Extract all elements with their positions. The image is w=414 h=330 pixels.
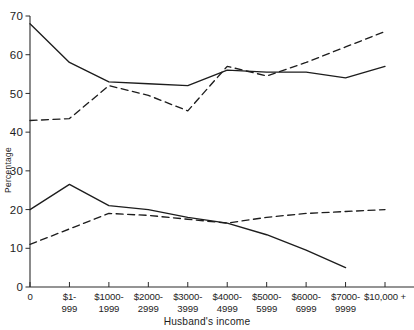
x-tick-label: $1000- <box>94 291 123 302</box>
line-chart: 010203040506070 0$1-999$1000-1999$2000-2… <box>0 0 414 330</box>
x-tick-label: $10,000 + <box>364 291 407 302</box>
data-series-group <box>30 24 385 268</box>
x-tick-label: $7000- <box>331 291 360 302</box>
series-line-lower-dashed <box>30 210 385 245</box>
series-line-upper-solid <box>30 24 385 86</box>
x-tick-label-line2: 6999 <box>296 303 317 314</box>
x-tick-labels: 0$1-999$1000-1999$2000-2999$3000-3999$40… <box>27 291 406 314</box>
y-axis-title: Percentage <box>3 147 13 193</box>
x-tick-label-line2: 999 <box>62 303 78 314</box>
x-tick-label-line2: 2999 <box>138 303 159 314</box>
y-tick-label: 60 <box>10 49 23 61</box>
x-axis <box>30 282 414 287</box>
y-tick-label: 10 <box>10 242 23 254</box>
x-tick-label: $1- <box>63 291 77 302</box>
x-tick-label-line2: 5999 <box>256 303 277 314</box>
y-tick-label: 50 <box>10 88 23 100</box>
x-tick-label-line2: 1999 <box>98 303 119 314</box>
y-tick-label: 0 <box>16 281 23 293</box>
y-tick-label: 70 <box>10 10 23 22</box>
x-tick-label-line2: 4999 <box>217 303 238 314</box>
y-tick-label: 40 <box>10 126 23 138</box>
x-tick-label: $6000- <box>291 291 320 302</box>
x-tick-label-line2: 9999 <box>335 303 356 314</box>
chart-container: 010203040506070 0$1-999$1000-1999$2000-2… <box>0 0 414 330</box>
x-tick-label: 0 <box>27 291 32 302</box>
x-tick-label: $2000- <box>134 291 163 302</box>
x-tick-label: $3000- <box>173 291 202 302</box>
x-axis-title: Husband's income <box>164 316 251 327</box>
x-tick-label: $4000- <box>213 291 242 302</box>
y-tick-label: 20 <box>10 204 23 216</box>
x-tick-label: $5000- <box>252 291 281 302</box>
x-tick-label-line2: 3999 <box>177 303 198 314</box>
